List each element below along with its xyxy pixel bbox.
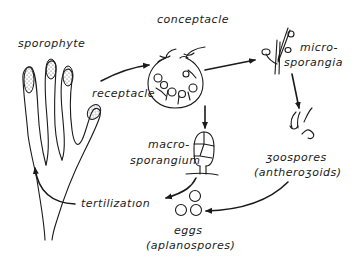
label-macrosporangium-1: macro- [148, 139, 190, 151]
label-eggs-2: (aplanospores) [146, 240, 235, 252]
arrow-receptacle-to-conceptacle [101, 65, 149, 81]
arrow-conceptacle-to-microsporangia [205, 60, 255, 70]
label-eggs-1: eggs [174, 225, 202, 237]
label-macrosporangium-2: sporangium [130, 155, 200, 167]
zoospores-icon [290, 108, 314, 139]
label-zoospores-2: (antheroʒoids) [254, 167, 341, 179]
label-microsporangia-1: micro- [300, 42, 338, 54]
conceptacle-icon [148, 47, 205, 108]
arrow-microsporangia-to-zoospores [292, 74, 299, 108]
label-receptacle: receptacle [92, 88, 155, 100]
label-microsporangia-2: sporangia [284, 57, 343, 69]
label-fertilization: tertilizatıon [81, 198, 150, 210]
label-sporophyte: sporophyte [18, 38, 85, 50]
eggs-icon [176, 191, 202, 216]
life-cycle-diagram: sporophyte receptacle conceptacle micro-… [0, 0, 362, 270]
arrow-zoospores-to-eggs [206, 182, 288, 211]
label-zoospores-1: ʒoospores [266, 152, 327, 164]
arrow-macrosporangium-to-fertilization [166, 178, 196, 198]
label-conceptacle: conceptacle [157, 14, 229, 26]
